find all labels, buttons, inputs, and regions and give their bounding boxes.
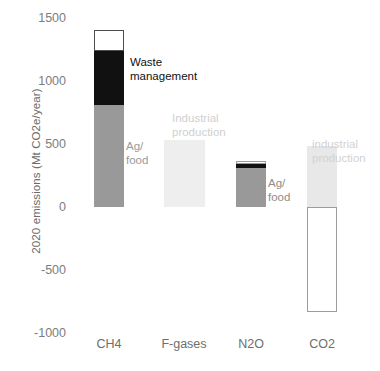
bar-segment xyxy=(94,51,124,105)
x-tick-label-co2: CO2 xyxy=(309,337,335,351)
annotation-waste: Waste management xyxy=(130,55,197,83)
bar-segment xyxy=(236,168,266,207)
bar-segment xyxy=(94,30,124,51)
bar-segment xyxy=(164,140,205,207)
x-tick-label-n2o: N2O xyxy=(238,337,264,351)
x-tick-label-f-gases: F-gases xyxy=(161,337,206,351)
y-tick-label: -500 xyxy=(10,264,66,277)
bar-n2o xyxy=(236,0,266,330)
bar-segment xyxy=(236,164,266,168)
bar-segment xyxy=(94,105,124,207)
y-tick-label: 500 xyxy=(10,138,66,151)
bar-segment xyxy=(307,207,337,312)
emissions-bar-chart: 2020 emissions (Mt CO2e/year) 1500100050… xyxy=(0,0,380,371)
annotation-agfood-ch4: Ag/ food xyxy=(126,139,148,167)
x-tick-label-ch4: CH4 xyxy=(96,337,121,351)
annotation-ind-co2: industrial production xyxy=(312,137,366,165)
y-tick-label: 1500 xyxy=(10,12,66,25)
bar-f-gases xyxy=(164,0,205,330)
annotation-ind-fgases: Industrial production xyxy=(172,111,226,139)
annotation-agfood-n2o: Ag/ food xyxy=(268,176,290,204)
bar-ch4 xyxy=(94,0,124,330)
y-tick-label: 0 xyxy=(10,201,66,214)
bar-segment xyxy=(236,161,266,164)
y-tick-label: 1000 xyxy=(10,75,66,88)
y-axis-ticks: 150010005000-500-1000 xyxy=(8,0,66,371)
y-tick-label: -1000 xyxy=(10,327,66,340)
x-axis-ticks: CH4F-gasesN2OCO2 xyxy=(70,337,370,361)
